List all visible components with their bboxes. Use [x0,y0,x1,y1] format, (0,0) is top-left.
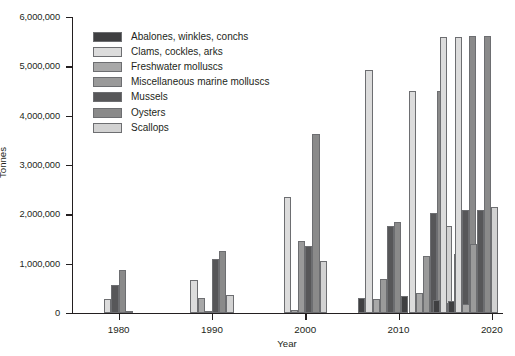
y-tick-label: 6,000,000 [20,12,60,22]
x-tick-label: 2000 [294,324,316,335]
bar [462,304,469,313]
bar [448,301,455,313]
y-tick-label: 1,000,000 [20,259,60,269]
y-tick-mark [66,313,72,314]
bar [433,300,440,313]
y-tick-label: 2,000,000 [20,209,60,219]
bar [440,37,447,313]
bar [401,296,408,313]
bar [409,91,416,313]
x-axis-line [72,313,503,314]
legend-item: Clams, cockles, arks [93,44,323,59]
legend-item-label: Scallops [131,123,169,133]
legend-item-label: Oysters [131,108,165,118]
bar [320,261,327,313]
bar [470,244,477,313]
legend-swatch-icon [93,62,122,72]
bar [387,226,394,313]
legend-item: Abalones, winkles, conchs [93,29,323,44]
legend-item: Scallops [93,120,323,135]
bar [380,279,387,313]
bar [455,37,462,313]
legend-item-label: Clams, cockles, arks [131,47,223,57]
x-tick-mark [492,314,493,320]
legend-swatch-icon [93,123,122,133]
legend-swatch-icon [93,77,122,87]
legend-item-label: Miscellaneous marine molluscs [131,77,269,87]
bar [430,213,437,313]
y-axis-title: Tonnes [0,147,8,178]
y-tick-label: 0 [55,308,60,318]
bar [284,197,291,313]
legend-item-label: Abalones, winkles, conchs [131,32,248,42]
legend-item-label: Freshwater molluscs [131,62,223,72]
chart-legend: Abalones, winkles, conchsClams, cockles,… [93,29,323,135]
bar [358,298,365,313]
bar [212,259,219,313]
legend-item-label: Mussels [131,92,168,102]
x-tick-label: 2010 [388,324,410,335]
y-tick-label: 5,000,000 [20,61,60,71]
legend-swatch-icon [93,47,122,57]
bar [104,299,111,313]
bar-chart: Tonnes Year 01,000,0002,000,0003,000,000… [0,0,515,356]
bar [226,295,233,313]
bar [119,270,126,313]
bar [111,285,118,313]
x-tick-label: 2020 [481,324,503,335]
bar [205,311,212,313]
legend-item: Oysters [93,105,323,120]
legend-swatch-icon [93,32,122,42]
x-tick-mark [399,314,400,320]
y-tick-label: 3,000,000 [20,160,60,170]
legend-item: Freshwater molluscs [93,59,323,74]
bar [298,241,305,313]
bar [484,36,491,313]
x-tick-mark [305,314,306,320]
x-tick-mark [119,314,120,320]
y-tick-label: 4,000,000 [20,111,60,121]
bar [312,134,319,313]
bar [190,280,197,313]
bar [365,70,372,313]
bar [126,311,133,313]
bar [291,310,298,313]
bar [219,251,226,313]
bar [423,256,430,313]
legend-item: Mussels [93,90,323,105]
legend-swatch-icon [93,108,122,118]
x-axis-title: Year [277,338,296,349]
legend-item: Miscellaneous marine molluscs [93,75,323,90]
x-tick-label: 1980 [108,324,130,335]
bar [477,210,484,313]
x-tick-mark [212,314,213,320]
bar [491,207,498,313]
bar [416,293,423,313]
bar [198,298,205,313]
bar [373,299,380,313]
bar [462,210,469,313]
legend-swatch-icon [93,92,122,102]
x-tick-label: 1990 [201,324,223,335]
bar [305,246,312,313]
